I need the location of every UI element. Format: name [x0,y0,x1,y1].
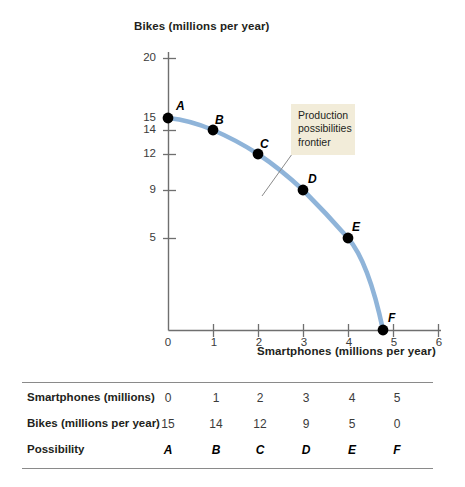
data-point-d [298,185,309,196]
x-tick-label-1: 1 [204,336,224,348]
callout-line-3: frontier [298,136,349,149]
callout-line-2: possibilities [298,122,349,135]
x-tick-label-4: 4 [339,336,359,348]
cell-smartphones-4: 4 [336,391,368,405]
cell-smartphones-5: 5 [381,391,413,405]
cell-bikes-2: 12 [244,417,276,431]
y-tick-label-15: 15 [134,111,156,123]
cell-bikes-1: 14 [200,417,232,431]
cell-smartphones-3: 3 [290,391,322,405]
cell-possibility-2: C [244,443,276,457]
point-label-e: E [352,220,360,234]
point-label-d: D [308,172,317,186]
y-tick-label-14: 14 [134,123,156,135]
cell-possibility-5: F [381,443,413,457]
point-label-f: F [388,311,395,325]
cell-smartphones-2: 2 [244,391,276,405]
table-rule-top [22,382,433,383]
cell-bikes-3: 9 [290,417,322,431]
y-tick-label-9: 9 [134,183,156,195]
ppf-figure: Bikes (millions per year) Smartphones (m… [0,0,465,487]
y-tick-label-20: 20 [134,51,156,63]
annotation-callout: Production possibilities frontier [291,104,355,155]
cell-possibility-1: B [200,443,232,457]
table-row: Possibility A B C D E F [0,443,465,469]
x-tick-label-3: 3 [294,336,314,348]
cell-possibility-4: E [336,443,368,457]
table-row: Smartphones (millions) 0 1 2 3 4 5 [0,391,465,417]
cell-possibility-3: D [290,443,322,457]
row-label-bikes: Bikes (millions per year) [27,417,160,429]
data-point-f [378,325,389,336]
data-point-a [163,113,174,124]
point-label-c: C [260,137,269,151]
cell-possibility-0: A [152,443,184,457]
x-tick-label-2: 2 [249,336,269,348]
cell-smartphones-1: 1 [200,391,232,405]
row-label-possibility: Possibility [27,443,85,455]
cell-bikes-0: 15 [152,417,184,431]
table-row: Bikes (millions per year) 15 14 12 9 5 0 [0,417,465,443]
y-axis-title: Bikes (millions per year) [134,20,269,32]
y-tick-label-5: 5 [134,231,156,243]
y-tick-label-12: 12 [134,147,156,159]
cell-bikes-4: 5 [336,417,368,431]
point-label-b: B [215,113,224,127]
x-tick-label-5: 5 [384,336,404,348]
y-tick-marks [163,59,176,239]
cell-bikes-5: 0 [381,417,413,431]
callout-line-1: Production [298,109,349,122]
x-tick-label-0: 0 [158,336,178,348]
data-table: Smartphones (millions) 0 1 2 3 4 5 Bikes… [0,365,465,487]
chart-plot-area: Bikes (millions per year) Smartphones (m… [0,0,465,365]
x-tick-label-6: 6 [429,336,449,348]
cell-smartphones-0: 0 [152,391,184,405]
callout-leader-line [262,150,295,196]
row-label-smartphones: Smartphones (millions) [27,391,155,403]
data-point-e [343,233,354,244]
point-label-a: A [176,99,185,113]
